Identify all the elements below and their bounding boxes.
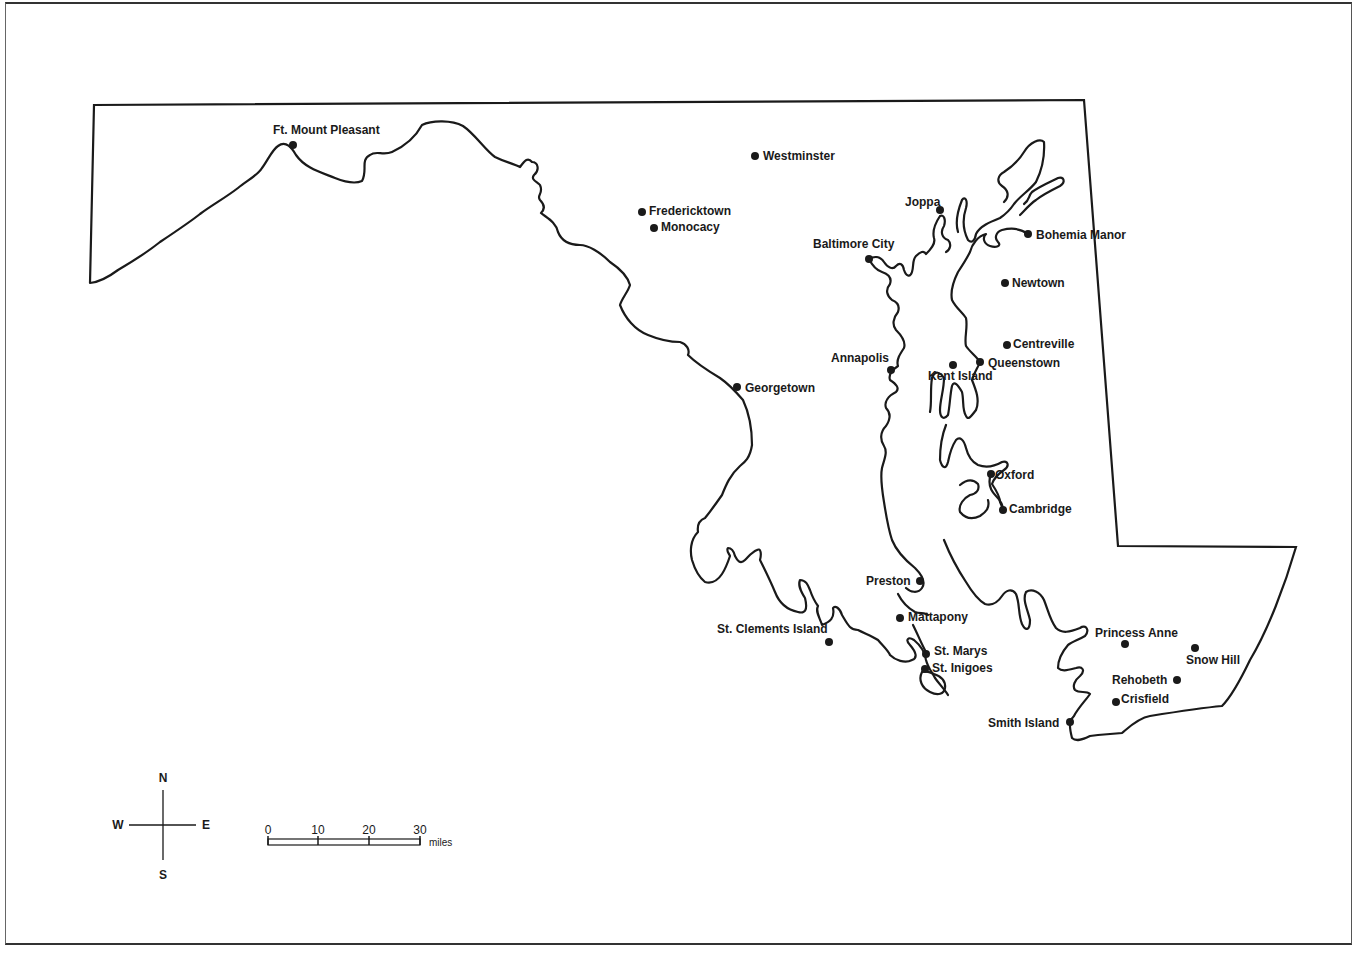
place-marker: Oxford: [987, 468, 1034, 482]
place-marker: St. Inigoes: [921, 661, 993, 675]
place-dot: [1173, 676, 1181, 684]
place-dot: [289, 141, 297, 149]
place-dot: [1001, 279, 1009, 287]
place-dot: [1112, 698, 1120, 706]
place-label: Oxford: [995, 468, 1034, 482]
place-dot: [638, 208, 646, 216]
place-marker: Georgetown: [733, 381, 815, 395]
place-label: Ft. Mount Pleasant: [273, 123, 380, 137]
place-marker: Westminster: [751, 149, 835, 163]
place-dot: [916, 577, 924, 585]
place-marker: Bohemia Manor: [1024, 228, 1126, 242]
scale-tick-0: 0: [265, 823, 272, 837]
maryland-map: Ft. Mount PleasantWestminsterFrederickto…: [0, 0, 1363, 963]
place-label: Baltimore City: [813, 237, 895, 251]
place-marker: Cambridge: [999, 502, 1072, 516]
place-dot: [922, 650, 930, 658]
bush-river: [957, 140, 1044, 241]
compass-west: W: [112, 818, 124, 832]
place-marker: Monocacy: [650, 220, 720, 234]
compass-south: S: [159, 868, 167, 882]
place-label: Georgetown: [745, 381, 815, 395]
place-dot: [1066, 718, 1074, 726]
place-dot: [976, 358, 984, 366]
place-dot: [1003, 341, 1011, 349]
place-dot: [825, 638, 833, 646]
place-marker: Joppa: [905, 195, 944, 214]
place-label: St. Marys: [934, 644, 988, 658]
place-label: Crisfield: [1121, 692, 1169, 706]
place-dot: [751, 152, 759, 160]
place-dot: [733, 383, 741, 391]
scale-bar: 0 10 20 30 miles: [265, 823, 453, 848]
place-marker: Newtown: [1001, 276, 1065, 290]
place-dot: [887, 366, 895, 374]
place-label: Smith Island: [988, 716, 1059, 730]
place-dot: [1191, 644, 1199, 652]
place-dot: [987, 470, 995, 478]
place-label: Annapolis: [831, 351, 889, 365]
place-label: Bohemia Manor: [1036, 228, 1126, 242]
place-marker: Princess Anne: [1095, 626, 1178, 648]
place-dot: [650, 224, 658, 232]
place-marker: Rehobeth: [1112, 673, 1181, 687]
place-label: Joppa: [905, 195, 941, 209]
compass-east: E: [202, 818, 210, 832]
place-marker: Queenstown: [976, 356, 1060, 370]
place-label: St. Inigoes: [932, 661, 993, 675]
place-dot: [949, 361, 957, 369]
place-label: Mattapony: [908, 610, 968, 624]
scale-tick-10: 10: [311, 823, 325, 837]
scale-tick-30: 30: [413, 823, 427, 837]
place-marker: Centreville: [1003, 337, 1075, 351]
place-marker: Annapolis: [831, 351, 895, 374]
place-label: Cambridge: [1009, 502, 1072, 516]
place-marker: Snow Hill: [1186, 644, 1240, 667]
place-marker: Fredericktown: [638, 204, 731, 218]
place-marker: Mattapony: [896, 610, 968, 624]
scale-tick-20: 20: [362, 823, 376, 837]
place-label: Rehobeth: [1112, 673, 1167, 687]
place-label: Queenstown: [988, 356, 1060, 370]
place-marker: St. Marys: [922, 644, 988, 658]
place-label: Centreville: [1013, 337, 1075, 351]
place-label: Monocacy: [661, 220, 720, 234]
place-marker: Smith Island: [988, 716, 1074, 730]
place-label: Princess Anne: [1095, 626, 1178, 640]
place-dot: [865, 255, 873, 263]
place-label: St. Clements Island: [717, 622, 828, 636]
place-dot: [896, 614, 904, 622]
place-dot: [1024, 230, 1032, 238]
place-label: Snow Hill: [1186, 653, 1240, 667]
place-label: Preston: [866, 574, 911, 588]
place-label: Westminster: [763, 149, 835, 163]
place-label: Fredericktown: [649, 204, 731, 218]
place-label: Kent Island: [928, 369, 993, 383]
place-marker: Crisfield: [1112, 692, 1169, 706]
places: Ft. Mount PleasantWestminsterFrederickto…: [273, 123, 1240, 730]
place-label: Newtown: [1012, 276, 1065, 290]
place-dot: [999, 506, 1007, 514]
potomac-river: [90, 121, 948, 695]
compass-rose: N S E W: [112, 771, 210, 882]
elk-river: [1020, 178, 1064, 215]
place-marker: Preston: [866, 574, 924, 588]
place-marker: St. Clements Island: [717, 622, 833, 646]
chesapeake-western-shore: [869, 259, 924, 592]
place-dot: [1121, 640, 1129, 648]
scale-unit: miles: [429, 837, 452, 848]
scale-bar-rect: [268, 839, 420, 845]
compass-north: N: [159, 771, 168, 785]
place-dot: [921, 665, 929, 673]
